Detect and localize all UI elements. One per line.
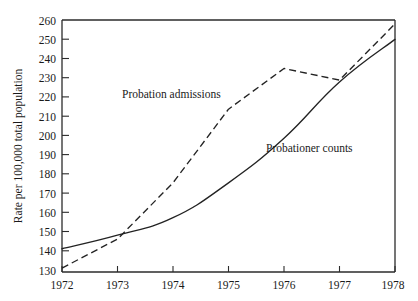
y-tick-label: 240 bbox=[39, 53, 57, 65]
y-axis-tick-marks bbox=[62, 39, 69, 251]
y-tick-label: 150 bbox=[39, 226, 57, 238]
x-tick-label: 1972 bbox=[51, 279, 74, 291]
y-tick-label: 130 bbox=[39, 265, 57, 277]
y-tick-label: 260 bbox=[39, 15, 57, 27]
x-tick-label: 1974 bbox=[162, 279, 185, 291]
x-tick-label: 1976 bbox=[273, 279, 296, 291]
x-tick-label: 1978 bbox=[382, 279, 405, 291]
y-tick-label: 230 bbox=[39, 72, 57, 84]
series-annotation-probationer-counts: Probationer counts bbox=[266, 142, 353, 154]
y-tick-label: 210 bbox=[39, 111, 57, 123]
chart-canvas: 260 250 240 230 220 210 200 190 180 170 … bbox=[0, 0, 418, 301]
series-annotation-probation-admissions: Probation admissions bbox=[122, 88, 221, 100]
y-tick-label: 190 bbox=[39, 149, 57, 161]
y-tick-label: 180 bbox=[39, 168, 57, 180]
y-tick-label: 220 bbox=[39, 91, 57, 103]
y-tick-label: 160 bbox=[39, 207, 57, 219]
x-tick-label: 1973 bbox=[106, 279, 129, 291]
x-tick-label: 1977 bbox=[328, 279, 351, 291]
line-chart-figure: 260 250 240 230 220 210 200 190 180 170 … bbox=[0, 0, 418, 301]
x-axis-tick-marks bbox=[62, 266, 395, 272]
y-tick-label: 170 bbox=[39, 188, 57, 200]
y-tick-label: 250 bbox=[39, 34, 57, 46]
y-tick-label: 140 bbox=[39, 245, 57, 257]
x-axis-tick-labels: 1972 1973 1974 1975 1976 1977 1978 bbox=[51, 279, 405, 291]
y-axis-tick-labels: 260 250 240 230 220 210 200 190 180 170 … bbox=[39, 15, 57, 277]
x-tick-label: 1975 bbox=[217, 279, 240, 291]
y-axis-title: Rate per 100,000 total population bbox=[12, 69, 25, 224]
y-tick-label: 200 bbox=[39, 130, 57, 142]
